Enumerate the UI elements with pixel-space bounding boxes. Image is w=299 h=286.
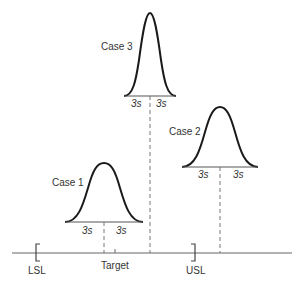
target-label: Target [101,260,129,271]
case-3-distribution-curve [124,13,176,96]
case-3-left-sigma: 3s [131,98,142,109]
case-2: Case 2 3s 3s [169,107,258,253]
case-1-right-sigma: 3s [116,225,127,236]
case-2-label: Case 2 [169,126,201,137]
usl-label: USL [186,265,206,276]
process-capability-diagram: Case 3 3s 3s Case 2 3s 3s Case 1 3s 3s L… [0,0,299,286]
case-1: Case 1 3s 3s [52,163,143,253]
case-2-left-sigma: 3s [198,169,209,180]
case-3-right-sigma: 3s [156,98,167,109]
case-3: Case 3 3s 3s [101,13,176,253]
case-2-right-sigma: 3s [233,169,244,180]
case-1-label: Case 1 [52,177,84,188]
case-1-distribution-curve [65,163,143,222]
case-2-distribution-curve [182,107,258,167]
case-3-label: Case 3 [101,41,133,52]
lsl-label: LSL [28,265,46,276]
case-1-left-sigma: 3s [82,225,93,236]
